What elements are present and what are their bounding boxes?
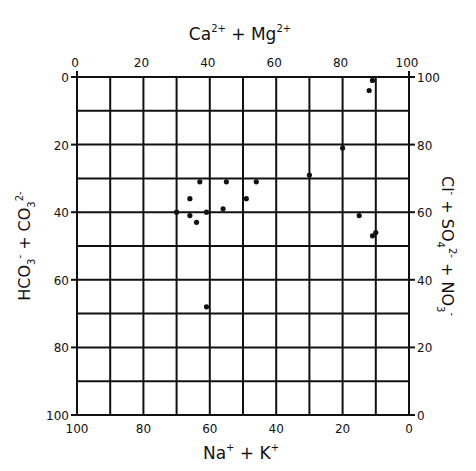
top-tick-label: 20 — [134, 56, 149, 70]
right-tick-label: 80 — [417, 139, 432, 153]
top-tick-label: 80 — [333, 56, 348, 70]
left-tick-label: 60 — [54, 274, 69, 288]
data-point — [367, 88, 372, 93]
data-point — [370, 78, 375, 83]
bottom-tick-label: 40 — [269, 422, 284, 436]
top-tick-label: 60 — [267, 56, 282, 70]
bottom-tick-label: 100 — [66, 422, 89, 436]
data-point — [254, 179, 259, 184]
data-point — [307, 172, 312, 177]
right-axis-label: Cl- + SO42- + NO3- — [435, 176, 458, 316]
data-point — [204, 304, 209, 309]
bottom-tick-label: 0 — [405, 422, 413, 436]
bottom-tick-label: 60 — [202, 422, 217, 436]
top-tick-label: 0 — [71, 56, 79, 70]
right-tick-label: 20 — [417, 341, 432, 355]
bottom-axis-label: Na+ + K+ — [203, 442, 279, 463]
data-point — [204, 210, 209, 215]
left-axis-label: HCO3- + CO32- — [14, 191, 37, 301]
left-tick-label: 0 — [61, 71, 69, 85]
data-point — [174, 210, 179, 215]
top-tick-label: 40 — [200, 56, 215, 70]
top-tick-label: 100 — [396, 56, 419, 70]
top-axis-label: Ca2+ + Mg2+ — [189, 23, 291, 44]
bottom-tick-label: 20 — [335, 422, 350, 436]
data-point — [187, 213, 192, 218]
right-tick-label: 40 — [417, 274, 432, 288]
data-point — [220, 206, 225, 211]
right-tick-label: 0 — [417, 409, 425, 423]
right-tick-label: 100 — [417, 71, 440, 85]
data-point — [340, 145, 345, 150]
data-point — [187, 196, 192, 201]
data-point — [370, 233, 375, 238]
left-tick-label: 40 — [54, 206, 69, 220]
data-point — [194, 220, 199, 225]
piper-diamond-chart: 0204060801001008060402000204060801001008… — [0, 0, 476, 471]
data-point — [197, 179, 202, 184]
left-tick-label: 100 — [46, 409, 69, 423]
right-tick-label: 60 — [417, 206, 432, 220]
left-tick-label: 80 — [54, 341, 69, 355]
data-point — [224, 179, 229, 184]
data-point — [357, 213, 362, 218]
bottom-tick-label: 80 — [136, 422, 151, 436]
data-point — [244, 196, 249, 201]
left-tick-label: 20 — [54, 139, 69, 153]
grid — [71, 71, 415, 415]
